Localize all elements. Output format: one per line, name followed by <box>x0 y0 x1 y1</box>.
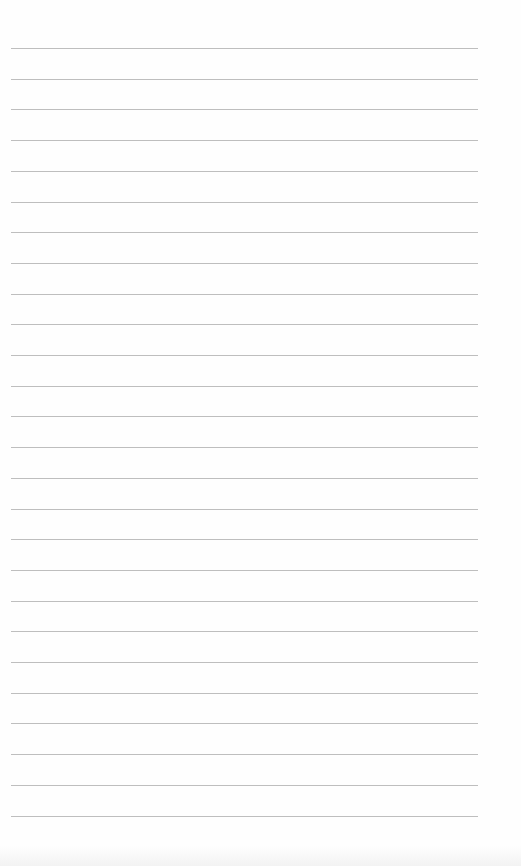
ruled-line <box>11 263 478 264</box>
ruled-line <box>11 386 478 387</box>
ruled-line <box>11 570 478 571</box>
ruled-line <box>11 662 478 663</box>
ruled-line <box>11 539 478 540</box>
ruled-line <box>11 232 478 233</box>
ruled-line <box>11 785 478 786</box>
ruled-line <box>11 109 478 110</box>
ruled-line <box>11 478 478 479</box>
ruled-line <box>11 202 478 203</box>
ruled-line <box>11 816 478 817</box>
lined-paper-page <box>0 0 521 866</box>
ruled-line <box>11 754 478 755</box>
ruled-line <box>11 447 478 448</box>
ruled-line <box>11 416 478 417</box>
ruled-line <box>11 601 478 602</box>
page-edge-shadow <box>0 846 521 866</box>
ruled-line <box>11 723 478 724</box>
ruled-line <box>11 509 478 510</box>
ruled-line <box>11 171 478 172</box>
ruled-line <box>11 324 478 325</box>
ruled-line <box>11 631 478 632</box>
ruled-line <box>11 140 478 141</box>
ruled-line <box>11 355 478 356</box>
ruled-line <box>11 693 478 694</box>
ruled-line <box>11 79 478 80</box>
ruled-line <box>11 48 478 49</box>
ruled-line <box>11 294 478 295</box>
